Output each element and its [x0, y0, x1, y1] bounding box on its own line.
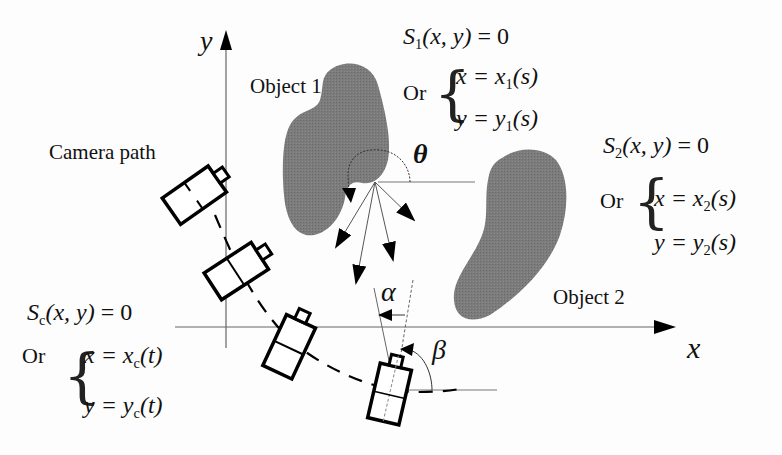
- object-1-label: Object 1: [250, 76, 322, 97]
- camera-4: [368, 352, 414, 424]
- diagram-canvas: y x Object 1 Object 2 Camera path θ α β …: [0, 0, 782, 455]
- camera-path-label: Camera path: [49, 142, 156, 163]
- object-1-or-label: Or: [403, 82, 426, 104]
- object-2-implicit-equation: S2(x, y) = 0: [603, 133, 709, 160]
- camera-2: [204, 236, 278, 299]
- camera-param-x: x = xc(t): [84, 343, 163, 370]
- x-axis: [175, 320, 676, 334]
- object-2-param-y: y = y2(s): [654, 230, 736, 257]
- theta-label: θ: [413, 140, 428, 168]
- beta-label: β: [432, 336, 446, 364]
- camera-1: [162, 160, 235, 225]
- object-1-param-y: y = y1(s): [456, 106, 538, 133]
- object-2-or-label: Or: [600, 190, 623, 212]
- x-axis-label: x: [687, 333, 700, 363]
- y-axis-label: y: [200, 27, 212, 55]
- camera-param-y: y = yc(t): [84, 393, 163, 420]
- object-2-shape: [454, 150, 567, 320]
- object-1-implicit-equation: S1(x, y) = 0: [403, 24, 509, 51]
- object-2-label: Object 2: [553, 287, 625, 308]
- camera-3: [263, 305, 320, 379]
- camera-implicit-equation: Sc(x, y) = 0: [27, 300, 132, 327]
- beta-arc: [410, 350, 432, 390]
- object-2-param-x: x = x2(s): [654, 186, 736, 213]
- object-1-param-x: x = x1(s): [456, 64, 538, 91]
- camera-or-label: Or: [22, 345, 45, 367]
- alpha-label: α: [381, 278, 396, 306]
